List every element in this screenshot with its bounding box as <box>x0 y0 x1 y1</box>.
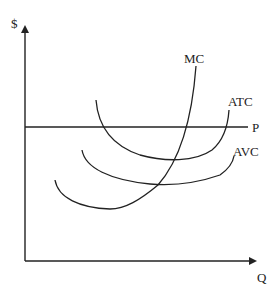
avc-label: AVC <box>233 145 259 158</box>
y-axis-label: $ <box>11 17 18 30</box>
atc-label: ATC <box>228 95 253 108</box>
cost-curves-diagram: $ Q MC ATC AVC P <box>0 0 278 296</box>
x-axis-label: Q <box>257 271 266 284</box>
mc-curve <box>55 66 196 209</box>
avc-curve <box>82 150 234 185</box>
price-label: P <box>252 121 259 134</box>
atc-curve <box>96 100 229 160</box>
mc-label: MC <box>184 52 204 65</box>
